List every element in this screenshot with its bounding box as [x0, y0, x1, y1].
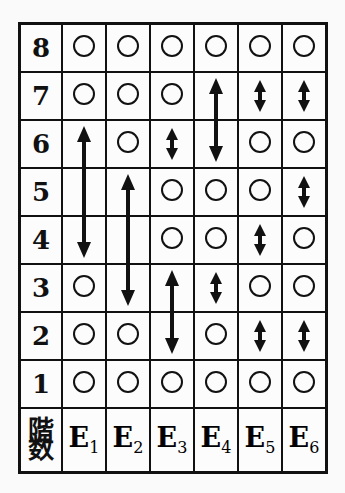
cell-E1-floor-1 [62, 360, 106, 408]
double-arrow-icon [298, 176, 310, 208]
double-arrow-icon [254, 320, 266, 352]
elevator-header-E1: E1 [62, 408, 106, 473]
elevator-header-E6: E6 [282, 408, 327, 473]
cell-E5-floor-5 [238, 168, 282, 216]
cell-E1-floor-3 [62, 264, 106, 312]
elevator-stop-table: 87654321階数E1E2E3E4E5E6 [18, 22, 328, 474]
cell-E5-floor-6 [238, 120, 282, 168]
stop-circle-icon [293, 131, 315, 153]
stop-circle-icon [117, 131, 139, 153]
cell-E6-floor-3 [282, 264, 327, 312]
double-arrow-icon [210, 272, 222, 304]
stop-circle-icon [249, 35, 271, 57]
elevator-letter: E [289, 422, 310, 453]
elevator-letter: E [245, 422, 266, 453]
cell-E2-floor-7 [106, 72, 150, 120]
stop-circle-icon [293, 35, 315, 57]
double-arrow-icon [209, 78, 223, 162]
cell-E5-floor-3 [238, 264, 282, 312]
double-arrow-icon [254, 224, 266, 256]
cell-E2-floor-1 [106, 360, 150, 408]
stop-circle-icon [205, 371, 227, 393]
cell-E6-floor-8 [282, 24, 327, 73]
floor-label: 4 [20, 216, 63, 264]
stop-circle-icon [293, 227, 315, 249]
double-arrow-icon [121, 174, 135, 306]
floor-row-5: 5 [20, 168, 327, 216]
stop-circle-icon [161, 227, 183, 249]
stop-circle-icon [293, 275, 315, 297]
elevator-number: 5 [265, 439, 275, 458]
floor-label: 8 [20, 24, 63, 73]
cell-E1-floor-8 [62, 24, 106, 73]
floor-label: 1 [20, 360, 63, 408]
elevator-header-E3: E3 [150, 408, 194, 473]
cell-E3-floor-1 [150, 360, 194, 408]
elevator-letter: E [69, 422, 90, 453]
cell-E5-floor-1 [238, 360, 282, 408]
double-arrow-icon [165, 270, 179, 354]
elevator-header-E2: E2 [106, 408, 150, 473]
floor-row-4: 4 [20, 216, 327, 264]
stop-circle-icon [73, 83, 95, 105]
elevator-letter: E [201, 422, 222, 453]
stop-circle-icon [249, 371, 271, 393]
stop-circle-icon [205, 323, 227, 345]
cell-E4-floor-8 [194, 24, 238, 73]
stop-circle-icon [293, 371, 315, 393]
stop-circle-icon [117, 83, 139, 105]
cell-E4-floor-4 [194, 216, 238, 264]
elevator-letter: E [113, 422, 134, 453]
stop-circle-icon [205, 35, 227, 57]
stop-circle-icon [161, 179, 183, 201]
stop-circle-icon [73, 275, 95, 297]
stop-circle-icon [117, 371, 139, 393]
cell-E6-floor-1 [282, 360, 327, 408]
double-arrow-icon [298, 80, 310, 112]
floor-row-7: 7 [20, 72, 327, 120]
cell-E1-floor-7 [62, 72, 106, 120]
cell-E4-floor-5 [194, 168, 238, 216]
stop-circle-icon [117, 323, 139, 345]
header-row: 階数E1E2E3E4E5E6 [20, 408, 327, 473]
double-arrow-icon [298, 320, 310, 352]
cell-E2-floor-2 [106, 312, 150, 360]
header-char: 数 [21, 440, 61, 459]
stop-circle-icon [161, 371, 183, 393]
stop-circle-icon [73, 323, 95, 345]
cell-E6-floor-4 [282, 216, 327, 264]
cell-E2-floor-8 [106, 24, 150, 73]
double-arrow-icon [254, 80, 266, 112]
floor-label: 6 [20, 120, 63, 168]
cell-E3-floor-7 [150, 72, 194, 120]
cell-E1-floor-2 [62, 312, 106, 360]
stop-circle-icon [249, 179, 271, 201]
cell-E2-floor-6 [106, 120, 150, 168]
stop-circle-icon [249, 275, 271, 297]
double-arrow-icon [77, 126, 91, 258]
floor-label: 7 [20, 72, 63, 120]
double-arrow-icon [166, 128, 178, 160]
cell-E3-floor-8 [150, 24, 194, 73]
cell-E4-floor-1 [194, 360, 238, 408]
elevator-number: 1 [89, 439, 99, 458]
floor-row-1: 1 [20, 360, 327, 408]
stop-circle-icon [205, 227, 227, 249]
floor-label: 5 [20, 168, 63, 216]
cell-E3-floor-5 [150, 168, 194, 216]
elevator-number: 4 [221, 439, 231, 458]
stop-circle-icon [73, 371, 95, 393]
elevator-number: 6 [309, 439, 319, 458]
floor-label: 3 [20, 264, 63, 312]
elevator-header-E4: E4 [194, 408, 238, 473]
stop-circle-icon [161, 83, 183, 105]
floor-count-header: 階数 [20, 408, 63, 473]
cell-E5-floor-8 [238, 24, 282, 73]
floor-label: 2 [20, 312, 63, 360]
stop-circle-icon [205, 179, 227, 201]
stop-circle-icon [73, 35, 95, 57]
cell-E4-floor-2 [194, 312, 238, 360]
elevator-number: 2 [133, 439, 143, 458]
stop-circle-icon [117, 35, 139, 57]
cell-E6-floor-6 [282, 120, 327, 168]
